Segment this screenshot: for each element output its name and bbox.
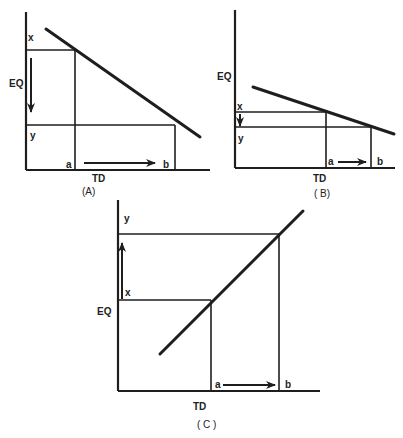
panel-c-caption: ( C ) xyxy=(197,419,216,430)
panel-a-a-label: a xyxy=(66,159,72,170)
panel-c-b-label: b xyxy=(285,379,291,390)
diagram-canvas: x EQ y a b TD (A) x EQ y a b TD ( B) xyxy=(0,0,403,438)
panel-a-xlabel: TD xyxy=(92,173,105,184)
panel-c: y x EQ a b TD ( C ) xyxy=(97,200,320,430)
panel-b-x-label: x xyxy=(237,101,243,112)
panel-a-x-label: x xyxy=(28,32,34,43)
panel-a-b-label: b xyxy=(163,159,169,170)
panel-c-y-label: y xyxy=(124,213,130,224)
panel-b-a-label: a xyxy=(328,156,334,167)
panel-a: x EQ y a b TD (A) xyxy=(9,12,210,197)
panel-b-ylabel: EQ xyxy=(217,71,232,82)
panel-b: x EQ y a b TD ( B) xyxy=(217,10,395,199)
panel-c-a-label: a xyxy=(215,379,221,390)
panel-c-ylabel: EQ xyxy=(97,306,112,317)
panel-b-b-label: b xyxy=(377,156,383,167)
panel-c-xlabel: TD xyxy=(193,401,206,412)
panel-b-xlabel: TD xyxy=(313,173,326,184)
panel-c-x-label: x xyxy=(125,287,131,298)
panel-a-caption: (A) xyxy=(82,186,95,197)
panel-b-caption: ( B) xyxy=(314,188,330,199)
panel-c-line xyxy=(160,211,303,354)
panel-b-y-label: y xyxy=(238,133,244,144)
panel-a-y-label: y xyxy=(30,130,36,141)
panel-a-line xyxy=(46,29,200,137)
panel-a-ylabel: EQ xyxy=(9,78,24,89)
